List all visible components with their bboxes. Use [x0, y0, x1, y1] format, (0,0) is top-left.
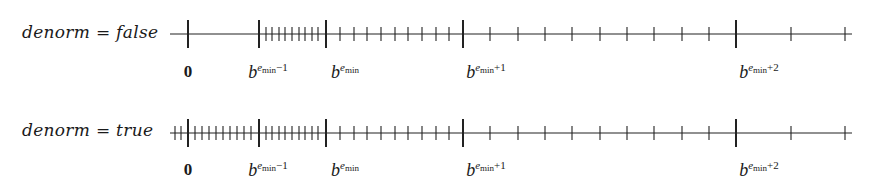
- row-label-denorm-true: denorm = true: [22, 120, 153, 140]
- row-label-denorm-false: denorm = false: [22, 22, 158, 42]
- tick-label-zero: 0: [184, 62, 193, 82]
- tick-label-power: bemin: [331, 62, 359, 83]
- tick-label-power: bemin−1: [248, 160, 288, 181]
- tick-label-power: bemin+1: [466, 160, 506, 181]
- tick-label-power: bemin+1: [466, 62, 506, 83]
- floating-point-number-line-diagram: denorm = false denorm = true 0bemin−1bem…: [0, 0, 870, 183]
- tick-label-power: bemin−1: [248, 62, 288, 83]
- tick-label-power: bemin+2: [739, 160, 779, 181]
- tick-label-power: bemin+2: [739, 62, 779, 83]
- tick-label-zero: 0: [184, 160, 193, 180]
- tick-label-power: bemin: [331, 160, 359, 181]
